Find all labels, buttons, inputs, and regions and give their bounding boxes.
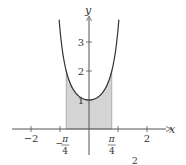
pi-numerator: π xyxy=(61,134,69,144)
denominator: 4 xyxy=(62,146,68,156)
x-axis-label: x xyxy=(169,123,176,136)
caption-fragment: 2 xyxy=(132,156,138,165)
axis-ticks: −22123−π4π4 xyxy=(24,37,151,157)
chart-figure: −22123−π4π4 x y 2 xyxy=(0,0,186,165)
x-tick-label: 2 xyxy=(144,133,150,144)
y-axis-label: y xyxy=(84,4,92,17)
pi-numerator: π xyxy=(108,134,116,144)
y-tick-label: 2 xyxy=(78,66,84,77)
y-tick-label: 1 xyxy=(78,95,84,106)
y-tick-label: 3 xyxy=(78,37,84,48)
denominator: 4 xyxy=(109,146,115,156)
x-tick-label: −2 xyxy=(24,133,39,144)
